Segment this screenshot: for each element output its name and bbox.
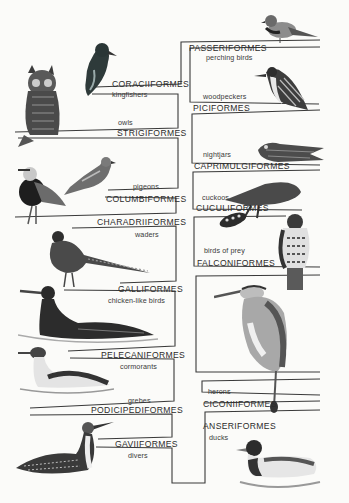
duck-illustration [236,436,322,492]
order-label-podicipediformes: PODICIPEDIFORMES [91,406,183,415]
common-name-woodpeckers: woodpeckers [203,93,246,100]
order-label-caprimulgiformes: CAPRIMULGIFORMES [194,162,290,171]
order-label-strigiformes: STRIGIFORMES [117,129,187,138]
grebe-illustration [18,345,114,397]
common-name-owls: owls [118,119,133,126]
order-label-coraciiformes: CORACIIFORMES [112,80,189,89]
common-name-nightjars: nightjars [203,151,231,158]
sparrow-illustration [258,12,320,44]
hawk-illustration [275,212,315,292]
order-label-galliformes: GALLIFORMES [118,285,183,294]
common-name-chicken-like-birds: chicken-like birds [108,297,165,304]
common-name-herons: herons [208,388,231,395]
common-name-ducks: ducks [209,434,228,441]
common-name-divers: divers [128,452,148,459]
lapwing-illustration [14,162,66,228]
common-name-grebes: grebes [128,397,151,404]
order-label-charadriiformes: CHARADRIIFORMES [97,218,186,227]
cormorant-illustration [18,285,158,347]
woodpecker-illustration [252,62,310,112]
order-label-pelecaniformes: PELECANIFORMES [101,351,185,360]
common-name-cuckoos: cuckoos [202,194,229,201]
order-label-ciconiiformes: CICONIIFORMES [203,400,277,409]
common-name-pigeons: pigeons [133,183,159,190]
common-name-waders: waders [135,231,159,238]
bird-orders-diagram: CORACIIFORMES kingfishers owls STRIGIFOR… [0,0,349,503]
common-name-cormorants: cormorants [120,363,157,370]
diver-illustration [14,420,114,480]
owl-illustration [14,63,68,147]
order-label-gaviiformes: GAVIIFORMES [115,440,178,449]
common-name-kingfishers: kingfishers [112,91,147,98]
pigeon-illustration [60,155,116,199]
order-label-piciformes: PICIFORMES [193,104,250,113]
common-name-perching-birds: perching birds [206,54,253,61]
order-label-cuculiformes: CUCULIFORMES [196,204,269,213]
order-label-falconiformes: FALCONIFORMES [197,259,275,268]
order-label-anseriformes: ANSERIFORMES [203,422,276,431]
common-name-birds-of-prey: birds of prey [204,247,245,254]
order-label-passeriformes: PASSERIFORMES [189,44,267,53]
order-label-columbiformes: COLUMBIFORMES [106,195,186,204]
